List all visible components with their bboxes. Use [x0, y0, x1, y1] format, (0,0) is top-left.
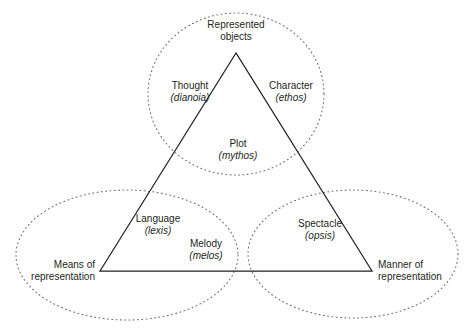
language-greek-term: (lexis)	[136, 225, 181, 237]
represented-objects-line-2: objects	[207, 31, 264, 43]
spectacle-greek-term: (opsis)	[298, 230, 342, 242]
element-label-melody: Melody (melos)	[189, 238, 222, 262]
diagram-canvas: Represented objects Means of representat…	[0, 0, 472, 329]
plot-term: Plot	[219, 138, 258, 150]
element-label-language: Language (lexis)	[136, 213, 181, 237]
vertex-label-manner-of-representation: Manner of representation	[378, 259, 442, 283]
means-of-representation-line-2: representation	[31, 271, 95, 283]
element-label-spectacle: Spectacle (opsis)	[298, 218, 342, 242]
ellipse-manner-of-representation	[248, 190, 458, 318]
manner-of-representation-line-1: Manner of	[378, 259, 442, 271]
character-greek-term: (ethos)	[269, 92, 313, 104]
thought-greek-term: (dianoia)	[171, 92, 210, 104]
element-label-thought: Thought (dianoia)	[171, 80, 210, 104]
spectacle-term: Spectacle	[298, 218, 342, 230]
element-label-character: Character (ethos)	[269, 80, 313, 104]
character-term: Character	[269, 80, 313, 92]
vertex-label-means-of-representation: Means of representation	[31, 259, 95, 283]
represented-objects-line-1: Represented	[207, 19, 264, 31]
element-label-plot: Plot (mythos)	[219, 138, 258, 162]
plot-greek-term: (mythos)	[219, 150, 258, 162]
melody-term: Melody	[189, 238, 222, 250]
language-term: Language	[136, 213, 181, 225]
thought-term: Thought	[171, 80, 210, 92]
means-of-representation-line-1: Means of	[31, 259, 95, 271]
manner-of-representation-line-2: representation	[378, 271, 442, 283]
melody-greek-term: (melos)	[189, 250, 222, 262]
vertex-label-represented-objects: Represented objects	[207, 19, 264, 43]
